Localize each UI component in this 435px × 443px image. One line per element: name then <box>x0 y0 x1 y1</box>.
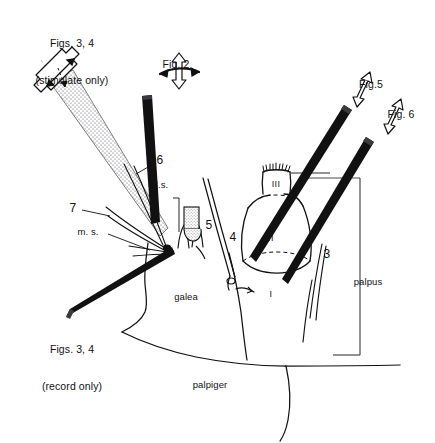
label-sensillum-6: 6 <box>157 153 164 167</box>
callout-stimulate: Figs. 3, 4 (stimulate only) <box>36 12 109 99</box>
callout-fig5: Fig.5 <box>359 53 383 103</box>
callout-stimulate-line2: (stimulate only) <box>36 74 109 86</box>
callout-record: Figs. 3, 4 (record only) <box>42 318 102 405</box>
ls-base-curve <box>196 246 205 259</box>
palpiger-outline <box>280 365 400 441</box>
label-galea: galea <box>174 291 198 302</box>
label-palpiger: palpiger <box>193 379 228 390</box>
callout-fig2: Fig. 2 <box>163 33 190 83</box>
callout-stimulate-line1: Figs. 3, 4 <box>36 37 109 49</box>
label-lateral-sensillum: l.s. <box>156 179 169 190</box>
electrode-5-tip <box>184 207 201 241</box>
callout-fig2-line1: Fig. 2 <box>163 58 190 70</box>
electrode-fig5 <box>250 105 352 262</box>
callout-fig5-line1: Fig.5 <box>359 78 383 90</box>
label-medial-sensillum: m. s. <box>77 226 98 237</box>
label-palp-segment-II: II <box>268 233 274 244</box>
label-sensillum-5: 5 <box>206 218 213 232</box>
label-sensillum-3: 3 <box>324 247 331 261</box>
label-palp-segment-III: III <box>272 179 281 190</box>
callout-record-line2: (record only) <box>42 380 102 392</box>
callout-fig6: Fig. 6 <box>388 83 415 133</box>
label-sensillum-7: 7 <box>70 201 77 215</box>
label-palpus: palpus <box>354 276 383 287</box>
label-sensillum-4: 4 <box>230 230 237 244</box>
label-palp-segment-I: I <box>270 289 273 300</box>
galea-outline <box>122 243 286 366</box>
electrode-record <box>66 247 175 319</box>
callout-record-line1: Figs. 3, 4 <box>42 343 102 355</box>
callout-fig6-line1: Fig. 6 <box>388 108 415 120</box>
ls-leader-line <box>173 198 179 232</box>
